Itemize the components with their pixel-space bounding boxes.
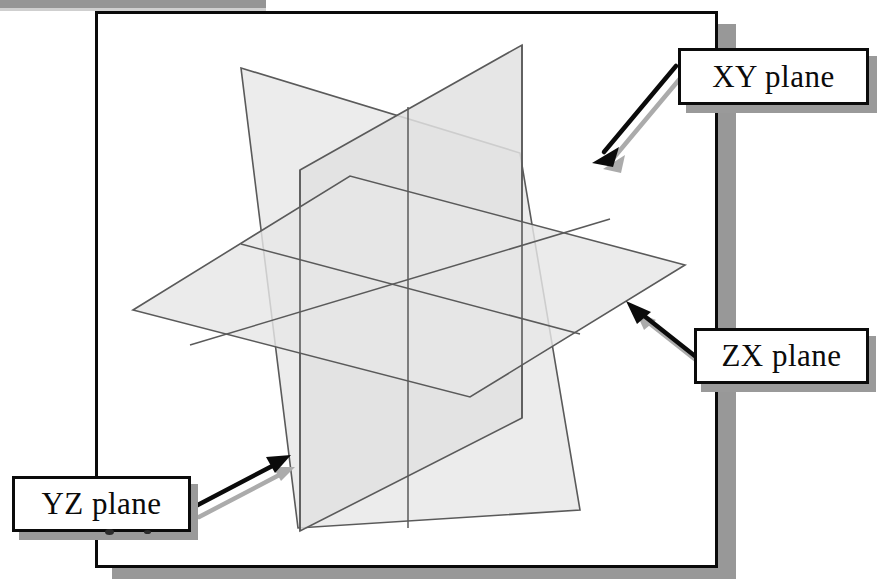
arrow-yz-plane xyxy=(192,455,295,517)
arrow-xy-plane xyxy=(592,66,683,173)
scan-speck xyxy=(105,529,114,535)
plane-zx xyxy=(133,176,685,397)
xy-plane-label: XY plane xyxy=(678,48,869,105)
scan-speck xyxy=(144,530,151,534)
zx-plane-label: ZX plane xyxy=(694,328,869,384)
yz-plane-label: YZ plane xyxy=(12,476,191,532)
figure-page: XY plane ZX plane YZ plane xyxy=(0,0,877,579)
